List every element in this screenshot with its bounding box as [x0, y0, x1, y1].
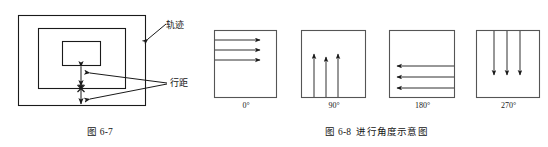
- angle-panel-90: [302, 31, 366, 98]
- angle-panel-0-box: [215, 31, 277, 98]
- angle-label-0: 0°: [215, 101, 277, 110]
- angle-label-270: 270°: [477, 101, 540, 110]
- angle-panel-270: [477, 31, 540, 98]
- figure-6-8-caption: 图 6-8进行角度示意图: [205, 124, 548, 138]
- line-spacing-callout-label: 行距: [170, 76, 188, 89]
- figure-6-8: 0° 90° 180° 270° 图 6-8进行角度示意图: [205, 0, 548, 147]
- spacing-leader-line-lower: [90, 84, 167, 99]
- angle-panel-90-box: [302, 31, 366, 98]
- trajectory-callout-label: 轨迹: [166, 18, 184, 31]
- angle-panel-180-box: [390, 31, 455, 98]
- figure-6-8-caption-title: 进行角度示意图: [356, 127, 427, 137]
- figure-6-7-caption: 图 6-7: [0, 124, 205, 138]
- angle-panel-180: [390, 31, 455, 98]
- figure-6-8-caption-number: 图 6-8: [325, 127, 351, 137]
- inner-trajectory-rect: [63, 42, 101, 66]
- trajectory-leader-line: [148, 24, 166, 39]
- angle-panel-0: [215, 31, 277, 98]
- figure-sheet: 轨迹 行距 图 6-7: [0, 0, 548, 147]
- middle-trajectory-rect: [39, 29, 126, 89]
- spacing-leader-line-upper: [90, 73, 167, 83]
- angle-label-180: 180°: [390, 101, 455, 110]
- figure-6-7: 轨迹 行距 图 6-7: [0, 0, 205, 147]
- angle-label-90: 90°: [302, 101, 366, 110]
- figure-6-7-caption-number: 图 6-7: [87, 127, 113, 137]
- angle-panel-270-box: [477, 31, 540, 98]
